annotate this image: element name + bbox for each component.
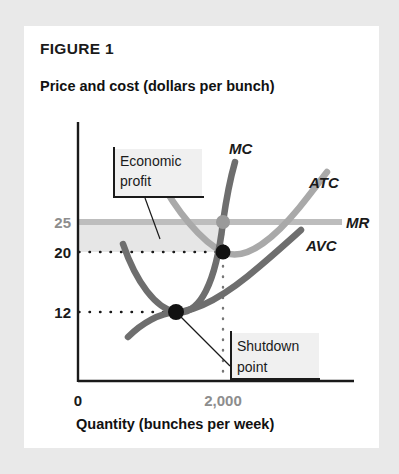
atc-curve-label: ATC [308, 174, 340, 191]
figure-container: FIGURE 1 Price and cost (dollars per bun… [0, 0, 399, 474]
economic-profit-callout-line2: profit [120, 173, 151, 189]
marker-atc-minimum [216, 245, 231, 260]
chart-plot-area: Economic profit Shutdown point 25 20 12 … [24, 26, 379, 448]
mc-curve-label: MC [229, 140, 253, 157]
economic-profit-callout-line1: Economic [120, 153, 181, 169]
x-tick-label-0: 0 [74, 392, 82, 409]
shutdown-callout-line1: Shutdown [237, 338, 299, 354]
marker-profit-maximizing-output [216, 215, 230, 229]
figure-card: FIGURE 1 Price and cost (dollars per bun… [24, 26, 379, 448]
x-tick-label-2000: 2,000 [204, 392, 242, 409]
y-tick-label-12: 12 [54, 304, 71, 321]
y-tick-label-20: 20 [54, 244, 71, 261]
shutdown-callout-line2: point [237, 359, 267, 375]
avc-curve-label: AVC [305, 237, 338, 254]
mr-curve-label: MR [346, 214, 369, 231]
y-tick-label-25: 25 [54, 214, 71, 231]
